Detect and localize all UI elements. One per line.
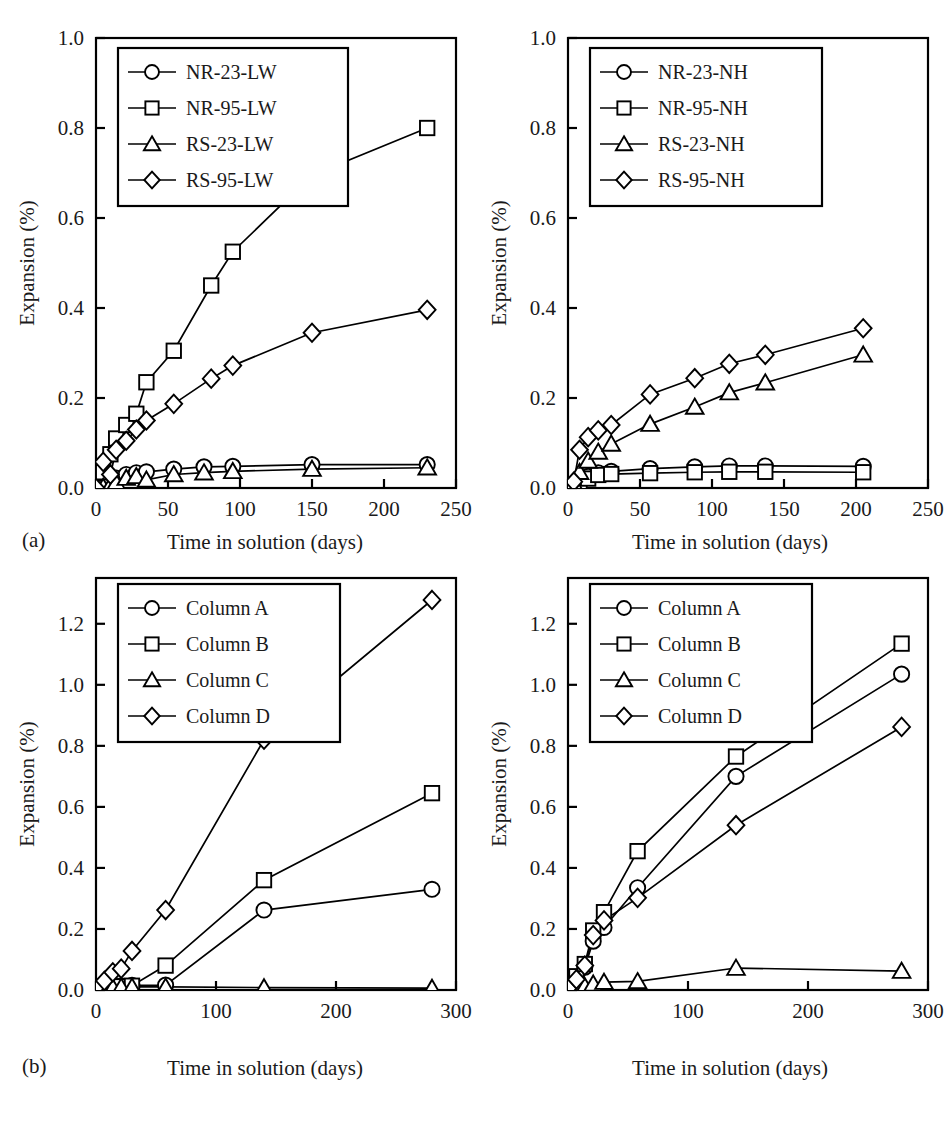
figure-root: 0501001502002500.00.20.40.60.81.0Expansi…	[0, 0, 952, 1125]
x-tick-label: 0	[91, 999, 102, 1022]
y-tick-label: 0.2	[58, 386, 84, 410]
x-tick-label: 50	[158, 497, 179, 520]
x-tick-label: 250	[440, 497, 472, 520]
y-tick-label: 0.6	[530, 795, 556, 819]
y-tick-label: 1.0	[58, 26, 84, 50]
data-point	[642, 385, 659, 403]
y-tick-label: 0.0	[530, 476, 556, 500]
data-point	[203, 369, 220, 387]
legend-label: NR-95-LW	[186, 97, 277, 119]
legend-label: Column B	[186, 633, 269, 655]
data-point	[757, 346, 774, 364]
y-tick-label: 0.4	[58, 856, 85, 880]
x-tick-label: 300	[440, 999, 472, 1022]
y-axis-title: Expansion (%)	[15, 200, 39, 325]
legend-item: NR-23-LW	[128, 61, 277, 83]
y-tick-label: 0.6	[58, 206, 84, 230]
data-point	[139, 375, 153, 389]
y-tick-label: 0.6	[58, 795, 84, 819]
x-tick-label: 200	[368, 497, 400, 520]
chart-b-right-svg: 01002003000.00.20.40.60.81.01.2Expansion…	[472, 562, 952, 1022]
y-axis-title: Expansion (%)	[487, 200, 511, 325]
data-point	[224, 356, 241, 374]
y-tick-label: 0.2	[530, 917, 556, 941]
panel-label-a: (a)	[22, 528, 45, 553]
legend-label: Column C	[658, 669, 741, 691]
x-tick-label: 200	[320, 999, 352, 1022]
legend-label: NR-23-NH	[658, 61, 748, 83]
data-point	[641, 416, 659, 431]
data-point	[688, 465, 702, 479]
legend-label: RS-95-NH	[658, 169, 745, 191]
y-tick-label: 0.8	[530, 116, 556, 140]
y-tick-label: 1.0	[530, 26, 556, 50]
data-point	[424, 591, 441, 609]
x-tick-label: 0	[563, 497, 574, 520]
data-point	[167, 344, 181, 358]
y-tick-label: 0.4	[530, 296, 557, 320]
y-tick-label: 1.2	[58, 612, 84, 636]
legend-label: Column C	[186, 669, 269, 691]
chart-panel-b-right: 01002003000.00.20.40.60.81.01.2Expansion…	[472, 562, 952, 1022]
data-point	[894, 667, 909, 682]
data-point	[630, 844, 644, 858]
chart-panel-a-left: 0501001502002500.00.20.40.60.81.0Expansi…	[0, 10, 480, 520]
data-point	[226, 245, 240, 259]
y-tick-label: 0.2	[58, 917, 84, 941]
legend-label: Column B	[658, 633, 741, 655]
chart-panel-a-right: 0501001502002500.00.20.40.60.81.0Expansi…	[472, 10, 952, 520]
data-point	[158, 958, 172, 972]
x-tick-label: 100	[224, 497, 256, 520]
y-tick-label: 0.0	[58, 476, 84, 500]
data-point	[257, 873, 271, 887]
legend-label: NR-95-NH	[658, 97, 748, 119]
y-tick-label: 0.0	[530, 978, 556, 1002]
data-point	[893, 718, 910, 736]
x-tick-label: 100	[696, 497, 728, 520]
data-point	[756, 374, 774, 389]
chart-panel-b-left: 01002003000.00.20.40.60.81.01.2Expansion…	[0, 562, 480, 1022]
series-line	[96, 310, 427, 488]
legend-label: RS-95-LW	[186, 169, 274, 191]
data-point	[728, 816, 745, 834]
y-tick-label: 0.4	[58, 296, 85, 320]
x-tick-label: 200	[840, 497, 872, 520]
data-point	[424, 882, 439, 897]
x-tick-label: 50	[630, 497, 651, 520]
chart-a-right-svg: 0501001502002500.00.20.40.60.81.0Expansi…	[472, 10, 952, 520]
x-axis-title-a-left: Time in solution (days)	[100, 530, 430, 555]
y-tick-label: 0.0	[58, 978, 84, 1002]
chart-b-left-svg: 01002003000.00.20.40.60.81.01.2Expansion…	[0, 562, 480, 1022]
y-tick-label: 0.8	[58, 116, 84, 140]
data-point	[720, 384, 738, 399]
data-point	[602, 436, 620, 451]
y-tick-label: 0.4	[530, 856, 557, 880]
x-tick-label: 0	[91, 497, 102, 520]
y-tick-label: 0.8	[58, 734, 84, 758]
data-point	[856, 465, 870, 479]
legend-label: Column D	[658, 705, 742, 727]
x-axis-title-b-left: Time in solution (days)	[100, 1056, 430, 1081]
data-point	[425, 786, 439, 800]
legend-label: Column D	[186, 705, 270, 727]
legend-label: Column A	[186, 597, 269, 619]
panel-label-b: (b)	[22, 1054, 47, 1079]
y-tick-label: 1.0	[58, 673, 84, 697]
x-axis-title-b-right: Time in solution (days)	[565, 1056, 895, 1081]
x-tick-label: 0	[563, 999, 574, 1022]
data-point	[643, 466, 657, 480]
data-point	[165, 395, 182, 413]
data-point	[256, 902, 271, 917]
y-axis-title: Expansion (%)	[15, 721, 39, 846]
legend-label: Column A	[658, 597, 741, 619]
data-point	[728, 769, 743, 784]
data-point	[686, 369, 703, 387]
legend-item: NR-23-NH	[600, 61, 748, 83]
x-tick-label: 150	[296, 497, 328, 520]
data-point	[419, 301, 436, 319]
data-point	[686, 399, 704, 414]
series-line	[96, 793, 432, 988]
data-point	[729, 749, 743, 763]
x-tick-label: 100	[672, 999, 704, 1022]
data-point	[420, 121, 434, 135]
